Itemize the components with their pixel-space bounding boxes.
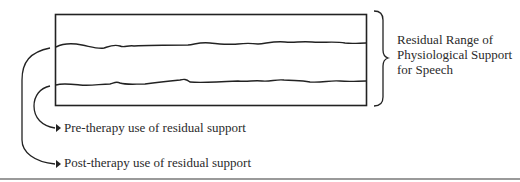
bottom-divider xyxy=(0,178,520,180)
post-arrowhead-icon xyxy=(56,160,61,168)
pre-arrowhead-icon xyxy=(56,124,61,132)
range-label-line-2: Physiological Support xyxy=(397,47,512,62)
post-therapy-label: Post-therapy use of residual support xyxy=(64,155,251,170)
pre-therapy-label: Pre-therapy use of residual support xyxy=(64,120,246,135)
upper-wavy-line xyxy=(56,42,366,49)
range-label: Residual Range of Physiological Support … xyxy=(397,32,512,77)
pre-arrow-curve xyxy=(34,86,55,128)
range-box xyxy=(56,15,367,106)
right-brace xyxy=(374,11,388,106)
post-arrow-curve xyxy=(22,48,55,164)
range-label-line-3: for Speech xyxy=(397,62,512,77)
range-label-line-1: Residual Range of xyxy=(397,32,512,47)
lower-wavy-line xyxy=(56,79,366,85)
